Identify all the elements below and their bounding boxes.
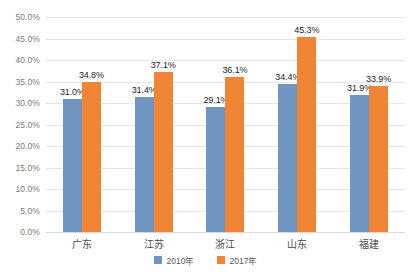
bar[interactable] xyxy=(82,82,101,232)
axis-baseline xyxy=(46,232,405,233)
y-axis: 50.0%45.0%40.0%35.0%30.0%25.0%20.0%15.0%… xyxy=(0,0,44,276)
legend-label: 2017年 xyxy=(230,254,258,266)
bar-group: 29.1%36.1% xyxy=(190,17,262,232)
legend-label: 2010年 xyxy=(167,254,195,266)
y-axis-tick-label: 45.0% xyxy=(15,34,40,44)
bar-slot: 34.4% xyxy=(278,17,297,232)
bar-group: 31.9%33.9% xyxy=(333,17,405,232)
x-axis-categories: 广东江苏浙江山东福建 xyxy=(46,236,405,256)
y-axis-tick-label: 40.0% xyxy=(15,55,40,65)
bar-group: 31.0%34.8% xyxy=(46,17,118,232)
bar-slot: 34.8% xyxy=(82,17,101,232)
bar[interactable] xyxy=(154,72,173,232)
y-axis-tick-label: 35.0% xyxy=(15,77,40,87)
bar-value-label: 34.8% xyxy=(79,70,104,80)
x-axis-tick-label: 广东 xyxy=(46,236,118,251)
bar-slot: 31.0% xyxy=(63,17,82,232)
y-axis-tick-label: 25.0% xyxy=(15,120,40,130)
bar[interactable] xyxy=(63,99,82,232)
x-axis-tick-label: 浙江 xyxy=(190,236,262,251)
y-axis-tick-label: 30.0% xyxy=(15,98,40,108)
bar-groups: 31.0%34.8%31.4%37.1%29.1%36.1%34.4%45.3%… xyxy=(46,17,405,232)
plot-area: 31.0%34.8%31.4%37.1%29.1%36.1%34.4%45.3%… xyxy=(46,17,405,232)
legend-item[interactable]: 2017年 xyxy=(217,254,258,266)
bar-chart: 50.0%45.0%40.0%35.0%30.0%25.0%20.0%15.0%… xyxy=(0,0,411,276)
bar[interactable] xyxy=(297,37,316,232)
bar-slot: 36.1% xyxy=(225,17,244,232)
bar-slot: 31.4% xyxy=(135,17,154,232)
legend-swatch-icon xyxy=(154,256,162,264)
legend-swatch-icon xyxy=(217,256,225,264)
bar-group: 34.4%45.3% xyxy=(261,17,333,232)
bar[interactable] xyxy=(135,97,154,232)
y-axis-tick-label: 20.0% xyxy=(15,141,40,151)
legend-item[interactable]: 2010年 xyxy=(154,254,195,266)
y-axis-tick-label: 0.0% xyxy=(20,227,40,237)
bar[interactable] xyxy=(369,86,388,232)
bar-value-label: 36.1% xyxy=(222,65,247,75)
bar-slot: 31.9% xyxy=(350,17,369,232)
x-axis-tick-label: 山东 xyxy=(261,236,333,251)
bar[interactable] xyxy=(206,107,225,232)
bar-slot: 45.3% xyxy=(297,17,316,232)
bar-group: 31.4%37.1% xyxy=(118,17,190,232)
bar[interactable] xyxy=(225,77,244,232)
y-axis-tick-label: 5.0% xyxy=(20,206,40,216)
bar-value-label: 37.1% xyxy=(151,60,176,70)
x-axis-tick-label: 福建 xyxy=(333,236,405,251)
bar[interactable] xyxy=(278,84,297,232)
bar-slot: 33.9% xyxy=(369,17,388,232)
bar-value-label: 33.9% xyxy=(366,74,391,84)
bar[interactable] xyxy=(350,95,369,232)
y-axis-tick-label: 10.0% xyxy=(15,184,40,194)
bar-value-label: 45.3% xyxy=(294,25,319,35)
y-axis-tick-label: 15.0% xyxy=(15,163,40,173)
bar-slot: 29.1% xyxy=(206,17,225,232)
legend: 2010年2017年 xyxy=(0,254,411,266)
x-axis-tick-label: 江苏 xyxy=(118,236,190,251)
y-axis-tick-label: 50.0% xyxy=(15,12,40,22)
bar-slot: 37.1% xyxy=(154,17,173,232)
